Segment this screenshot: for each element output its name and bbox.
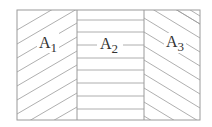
region-a3-hatch bbox=[144, 0, 200, 127]
region-a1-hatch bbox=[17, 5, 77, 127]
outer-border bbox=[17, 10, 200, 120]
region-a2-hatch bbox=[77, 20, 144, 109]
region-diagram: A1 A2 A3 bbox=[0, 0, 212, 127]
